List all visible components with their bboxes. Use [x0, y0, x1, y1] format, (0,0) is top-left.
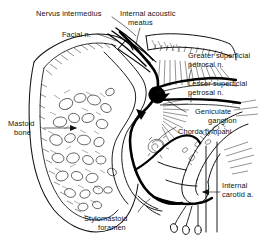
lesser-superficial-petrosal-nerve: [160, 99, 240, 103]
temporal-bone-outline: [29, 34, 138, 232]
label-lesser-petrosal-line2: petrosal n.: [188, 89, 224, 98]
nerve-terminal-branches: [170, 205, 202, 235]
leader-carotid-arrowhead: [202, 189, 209, 195]
internal-carotid-artery: [206, 142, 217, 232]
chorda-tympani-nerve: [135, 135, 200, 170]
meatus-shading: [152, 40, 180, 52]
label-greater-petrosal-line2: petrosal n.: [188, 61, 224, 70]
label-mastoid-line2: bone: [14, 129, 31, 138]
leader-mastoid-arrowhead: [70, 125, 77, 131]
label-geniculate-line2: ganglion: [208, 117, 237, 126]
label-nervus-intermedius: Nervus intermedius: [36, 10, 101, 19]
label-stylomastoid-line2: foramen: [98, 224, 126, 233]
leader-internal-acoustic-meatus: [136, 28, 140, 45]
label-chorda-tympani: Chorda tympani: [178, 128, 232, 137]
label-facial-n: Facial n.: [62, 31, 91, 40]
cochlear-promontory: [146, 136, 169, 158]
label-internal-acoustic-meatus-line2: meatus: [128, 19, 153, 28]
mastoid-cortical-hatching: [39, 43, 117, 221]
anatomical-figure: Nervus intermedius Internal acoustic mea…: [0, 0, 265, 250]
mastoid-air-cells: [48, 87, 118, 211]
label-internal-carotid-line2: carotid a.: [222, 191, 253, 200]
mastoid-trabecular-hatching: [48, 90, 105, 204]
